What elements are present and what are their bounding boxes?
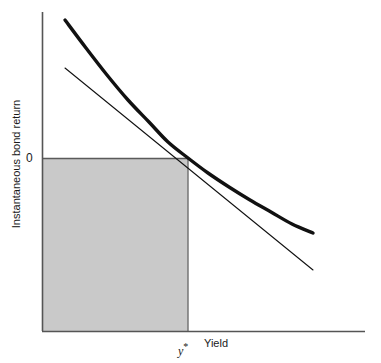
bond-return-yield-chart: Instantaneous bond return 0 y* Yield <box>0 0 381 363</box>
zero-return-shaded-region <box>42 158 188 331</box>
zero-tick-label: 0 <box>26 151 33 165</box>
ystar-tick-label: y* <box>178 344 188 359</box>
x-axis-title: Yield <box>204 337 228 349</box>
y-axis-title: Instantaneous bond return <box>10 84 22 244</box>
chart-canvas <box>0 0 381 363</box>
ystar-asterisk: * <box>183 341 188 352</box>
